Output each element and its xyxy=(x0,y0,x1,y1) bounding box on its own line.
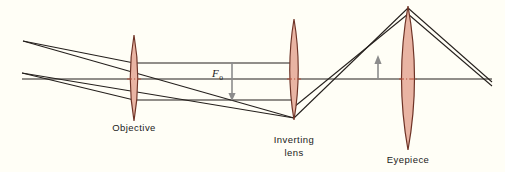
eyepiece-label: Eyepiece xyxy=(387,154,430,165)
focal-point-symbol: F xyxy=(211,67,219,79)
inverting-lens-label-line1: Inverting xyxy=(274,134,315,145)
inverting-lens-label-line2: lens xyxy=(284,147,303,158)
objective-label: Objective xyxy=(112,122,156,133)
ray-diagram-canvas: Fo Objective Inverting lens Eyepiece xyxy=(0,0,505,172)
focal-point-subscript: o xyxy=(219,73,223,82)
optical-diagram-figure: Fo Objective Inverting lens Eyepiece xyxy=(0,0,505,172)
